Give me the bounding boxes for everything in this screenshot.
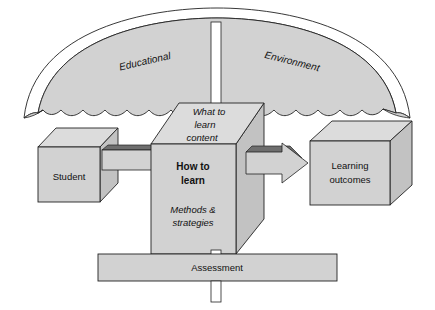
node-assessment[interactable]: Assessment <box>98 254 337 281</box>
outcomes-label-line-1: Learning <box>332 160 369 171</box>
umbrella-pole-upper <box>211 22 221 110</box>
center-sub-line-2: strategies <box>172 217 213 228</box>
center-heading-line-2: learn <box>181 175 205 186</box>
assessment-label: Assessment <box>191 262 243 273</box>
center-top-line-3: content <box>186 132 218 143</box>
center-heading-line-1: How to <box>176 161 209 172</box>
diagram-canvas: Educational Environment Student <box>0 0 435 310</box>
educational-environment-umbrella-diagram: Educational Environment Student <box>0 0 435 310</box>
center-top-line-1: What to <box>193 106 226 117</box>
outcomes-label-line-2: outcomes <box>329 174 370 185</box>
node-learning-outcomes[interactable]: Learning outcomes <box>310 121 412 205</box>
student-label: Student <box>53 171 86 182</box>
center-sub-line-1: Methods & <box>170 204 215 215</box>
center-top-line-2: learn <box>194 119 215 130</box>
node-center-how-to-learn[interactable]: What to learn content How to learn Metho… <box>151 103 264 254</box>
umbrella-pole-lower <box>211 281 221 302</box>
